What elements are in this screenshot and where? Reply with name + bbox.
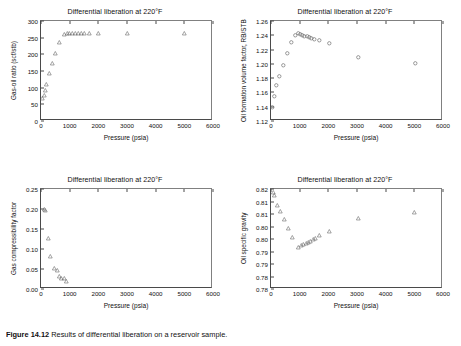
y-axis-tick-mark bbox=[41, 71, 44, 72]
data-point-marker bbox=[356, 55, 361, 60]
y-axis-tick-mark bbox=[41, 104, 44, 105]
y-axis-tick-mark bbox=[271, 226, 274, 227]
x-axis-tick-mark bbox=[41, 189, 42, 192]
chart-panel-oil-formation-volume-factor: Differential liberation at 220°F Oil for… bbox=[230, 2, 460, 162]
y-axis-tick-label: 0.81 bbox=[256, 198, 268, 205]
data-point-marker bbox=[317, 233, 322, 238]
data-point-marker bbox=[43, 208, 48, 213]
x-axis-tick-label: 4000 bbox=[379, 290, 393, 297]
y-axis-tick-label: 0.78 bbox=[256, 286, 268, 293]
y-axis-tick-label: 0.15 bbox=[26, 226, 38, 233]
y-axis-tick-label: 1.22 bbox=[256, 46, 268, 53]
x-axis-tick-label: 4000 bbox=[149, 122, 163, 129]
y-axis-tick-mark bbox=[271, 49, 274, 50]
y-axis-tick-label: 300 bbox=[28, 18, 38, 25]
x-axis-tick-label: 5000 bbox=[407, 290, 421, 297]
x-axis-tick-mark bbox=[357, 21, 358, 24]
data-point-marker bbox=[272, 193, 277, 198]
chart-title: Differential liberation at 220°F bbox=[230, 8, 460, 16]
figure-caption-text: Results of differential liberation on a … bbox=[51, 330, 227, 339]
x-axis-tick-mark bbox=[184, 189, 185, 192]
y-axis-tick-mark bbox=[41, 249, 44, 250]
data-point-marker bbox=[46, 236, 51, 241]
data-point-marker bbox=[50, 61, 55, 66]
figure-caption: Figure 14.12 Results of differential lib… bbox=[6, 330, 455, 344]
chart-grid: Differential liberation at 220°F Gas-oil… bbox=[0, 0, 461, 320]
data-point-marker bbox=[64, 279, 69, 284]
data-point-marker bbox=[48, 254, 53, 259]
y-axis-tick-mark bbox=[41, 37, 44, 38]
x-axis-tick-label: 3000 bbox=[120, 122, 134, 129]
x-axis-tick-label: 0 bbox=[269, 290, 272, 297]
x-axis-tick-label: 3000 bbox=[120, 290, 134, 297]
data-point-marker bbox=[125, 31, 130, 36]
y-axis-tick-label: 0.05 bbox=[26, 266, 38, 273]
x-axis-tick-label: 0 bbox=[269, 122, 272, 129]
y-axis-tick-mark bbox=[41, 229, 44, 230]
y-axis-tick-mark bbox=[41, 54, 44, 55]
x-axis-tick-label: 1000 bbox=[293, 122, 307, 129]
x-axis-tick-mark bbox=[127, 21, 128, 24]
y-axis-tick-label: 1.12 bbox=[256, 118, 268, 125]
x-axis-label: Pressure (psia) bbox=[40, 134, 212, 141]
y-axis-label: Gas-oil ratio (scf/stb) bbox=[10, 41, 17, 100]
y-axis-tick-mark bbox=[271, 239, 274, 240]
x-axis-tick-mark bbox=[414, 21, 415, 24]
x-axis-tick-mark bbox=[357, 189, 358, 192]
x-axis-tick-mark bbox=[385, 21, 386, 24]
chart-panel-oil-specific-gravity: Differential liberation at 220°F Oil spe… bbox=[230, 170, 460, 330]
data-point-marker bbox=[82, 31, 87, 36]
data-point-marker bbox=[274, 83, 279, 88]
data-point-marker bbox=[281, 63, 286, 68]
data-point-marker bbox=[272, 94, 277, 99]
y-axis-tick-label: 50 bbox=[31, 101, 38, 108]
x-axis-tick-label: 3000 bbox=[350, 122, 364, 129]
x-axis-tick-label: 6000 bbox=[436, 122, 450, 129]
y-axis-tick-mark bbox=[271, 276, 274, 277]
data-point-marker bbox=[57, 40, 62, 45]
data-point-marker bbox=[87, 31, 92, 36]
y-axis-tick-label: 1.16 bbox=[256, 89, 268, 96]
y-axis-tick-mark bbox=[271, 214, 274, 215]
x-axis-tick-label: 0 bbox=[39, 122, 42, 129]
x-axis-label: Pressure (psia) bbox=[270, 134, 442, 141]
data-point-marker bbox=[55, 268, 60, 273]
data-point-marker bbox=[282, 217, 287, 222]
x-axis-tick-mark bbox=[41, 21, 42, 24]
y-axis-tick-label: 200 bbox=[28, 51, 38, 58]
x-axis-tick-label: 6000 bbox=[206, 122, 220, 129]
x-axis-tick-mark bbox=[184, 21, 185, 24]
y-axis-tick-label: 150 bbox=[28, 68, 38, 75]
y-axis-tick-mark bbox=[271, 78, 274, 79]
x-axis-tick-mark bbox=[414, 189, 415, 192]
x-axis-tick-label: 4000 bbox=[379, 122, 393, 129]
y-axis-tick-mark bbox=[271, 35, 274, 36]
chart-panel-gas-oil-ratio: Differential liberation at 220°F Gas-oil… bbox=[0, 2, 230, 162]
chart-title: Differential liberation at 220°F bbox=[0, 8, 230, 16]
plot-area: 0.780.780.790.790.800.800.810.810.820100… bbox=[270, 188, 442, 288]
plot-area: 0501001502002503000100020003000400050006… bbox=[40, 20, 212, 120]
x-axis-tick-mark bbox=[443, 189, 444, 192]
data-point-marker bbox=[182, 31, 187, 36]
data-point-marker bbox=[285, 51, 290, 56]
x-axis-tick-label: 6000 bbox=[206, 290, 220, 297]
x-axis-tick-label: 1000 bbox=[63, 290, 77, 297]
data-point-marker bbox=[413, 61, 418, 66]
plot-area: 1.121.141.161.181.201.221.241.2601000200… bbox=[270, 20, 442, 120]
y-axis-tick-mark bbox=[41, 269, 44, 270]
y-axis-tick-label: 0.79 bbox=[256, 261, 268, 268]
x-axis-tick-label: 0 bbox=[39, 290, 42, 297]
y-axis-tick-label: 0.81 bbox=[256, 211, 268, 218]
y-axis-tick-mark bbox=[271, 201, 274, 202]
chart-title: Differential liberation at 220°F bbox=[0, 176, 230, 184]
data-point-marker bbox=[53, 51, 58, 56]
data-point-marker bbox=[270, 105, 275, 110]
x-axis-tick-mark bbox=[385, 189, 386, 192]
data-point-marker bbox=[327, 229, 332, 234]
x-axis-tick-mark bbox=[98, 21, 99, 24]
data-point-marker bbox=[412, 210, 417, 215]
data-point-marker bbox=[327, 41, 332, 46]
y-axis-tick-label: 0.80 bbox=[256, 223, 268, 230]
x-axis-label: Pressure (psia) bbox=[40, 302, 212, 309]
x-axis-tick-label: 2000 bbox=[91, 122, 105, 129]
